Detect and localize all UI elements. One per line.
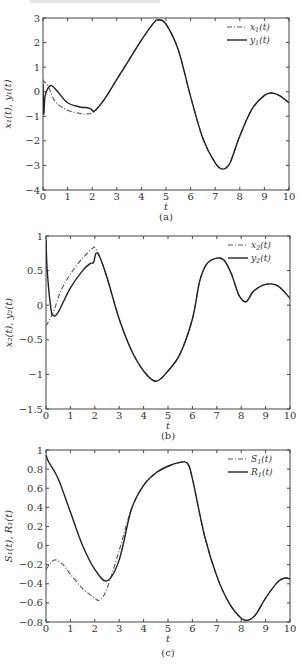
x-tick-label: 1 [67,410,73,421]
x-tick-label: 3 [116,623,122,634]
y-tick-label: −0.8 [19,617,43,628]
panel-caption: (a) [159,211,173,222]
y-tick-label: 1 [34,62,40,73]
legend-entry: R1(t) [250,467,273,479]
legend-entry: S1(t) [251,454,272,466]
y-tick-label: 0.5 [27,265,43,276]
x-tick-label: 8 [238,623,244,634]
x-tick-label: 4 [140,623,146,634]
series-s1t [46,462,290,621]
x-tick-label: 10 [284,410,297,421]
y-tick-label: 0.6 [27,483,43,494]
x-tick-label: 2 [92,623,98,634]
y-tick-label: 0 [37,300,43,311]
x-tick-label: 4 [138,191,144,202]
panel-c: 01234567891010.80.60.40.20−0.2−0.4−0.6−0… [3,445,296,659]
legend-entry: y1(t) [249,35,270,47]
x-tick-label: 8 [238,410,244,421]
y-axis-label: x₂(t), y₂(t) [3,298,14,347]
y-tick-label: −1 [28,369,43,380]
x-tick-label: 10 [284,623,297,634]
y-tick-label: −1.5 [19,404,43,415]
y-tick-label: −1 [25,111,40,122]
x-tick-label: 9 [262,623,268,634]
y-tick-label: 1 [37,231,43,242]
y-tick-label: −0.6 [19,597,43,608]
y-tick-label: 0.8 [27,464,43,475]
legend-entry: x2(t) [251,240,271,252]
figure: 0123456789103210−1−2−3−4x1(t)y1(t)tx₁(t)… [0,0,302,664]
y-axis-label: S₁(t), R₁(t) [3,510,14,562]
y-tick-label: −2 [25,135,40,146]
legend-entry: y2(t) [250,253,271,265]
y-tick-label: 0 [34,86,40,97]
y-axis-label: x₁(t), y₁(t) [2,79,13,128]
x-tick-label: 7 [214,623,220,634]
x-tick-label: 1 [64,191,70,202]
x-tick-label: 1 [67,623,73,634]
y-tick-label: −3 [25,160,40,171]
x-tick-label: 0 [43,410,49,421]
series-x2t [46,247,290,381]
y-tick-label: 2 [34,37,40,48]
x-tick-label: 7 [214,410,220,421]
y-tick-label: 0 [37,540,43,551]
x-tick-label: 6 [189,623,195,634]
panel-caption: (c) [161,647,175,658]
x-tick-label: 6 [187,191,193,202]
x-tick-label: 9 [262,410,268,421]
x-tick-label: 8 [237,191,243,202]
x-tick-label: 9 [261,191,267,202]
y-tick-label: 1 [37,445,43,456]
x-tick-label: 4 [140,410,146,421]
x-tick-label: 3 [116,410,122,421]
x-tick-label: 10 [283,191,296,202]
y-tick-label: 0.4 [27,502,43,513]
y-tick-label: −4 [25,185,40,196]
y-tick-label: 3 [34,13,40,24]
x-tick-label: 6 [189,410,195,421]
y-tick-label: −0.4 [19,578,43,589]
panel-a: 0123456789103210−1−2−3−4x1(t)y1(t)tx₁(t)… [2,13,295,223]
y-tick-label: −0.5 [19,334,43,345]
y-tick-label: 0.2 [27,521,43,532]
panel-caption: (b) [161,430,175,441]
panel-b: 01234567891010.50−0.5−1−1.5x2(t)y2(t)tx₂… [3,231,296,442]
x-tick-label: 0 [43,623,49,634]
y-tick-label: −0.2 [19,559,43,570]
series-r1t [46,455,290,621]
x-tick-label: 3 [114,191,120,202]
x-tick-label: 2 [92,410,98,421]
x-tick-label: 0 [40,191,46,202]
legend-entry: x1(t) [250,22,270,34]
x-tick-label: 7 [212,191,218,202]
x-tick-label: 2 [89,191,95,202]
x-axis-label: t [166,633,171,644]
